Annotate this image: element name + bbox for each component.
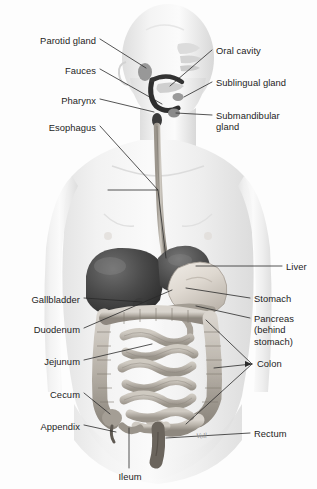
label-appendix: Appendix <box>41 421 81 432</box>
label-cecum: Cecum <box>50 389 80 400</box>
label-parotid-gland: Parotid gland <box>40 35 96 46</box>
sublingual-gland-shape <box>173 93 184 101</box>
label-ileum: Ileum <box>107 471 153 482</box>
label-colon: Colon <box>257 358 282 369</box>
label-pancreas: Pancreas (behind stomach) <box>254 313 294 347</box>
artist-signature: Voll <box>196 432 207 441</box>
label-pharynx: Pharynx <box>61 95 96 106</box>
anatomy-figure-canvas: Parotid gland Fauces Pharynx Esophagus G… <box>0 0 317 489</box>
label-gallbladder: Gallbladder <box>32 294 81 305</box>
label-oral-cavity: Oral cavity <box>216 45 261 56</box>
digestive-system-illustration <box>0 0 317 489</box>
label-submandibular-gland: Submandibular gland <box>216 110 280 133</box>
label-stomach: Stomach <box>254 293 291 304</box>
label-rectum: Rectum <box>254 428 287 439</box>
label-esophagus: Esophagus <box>49 122 96 133</box>
label-duodenum: Duodenum <box>34 324 80 335</box>
label-jejunum: Jejunum <box>44 356 80 367</box>
label-liver: Liver <box>286 261 307 272</box>
parotid-gland-shape <box>138 63 152 81</box>
label-sublingual-gland: Sublingual gland <box>216 77 286 88</box>
colon-arrowheads <box>245 361 252 367</box>
label-fauces: Fauces <box>65 65 96 76</box>
